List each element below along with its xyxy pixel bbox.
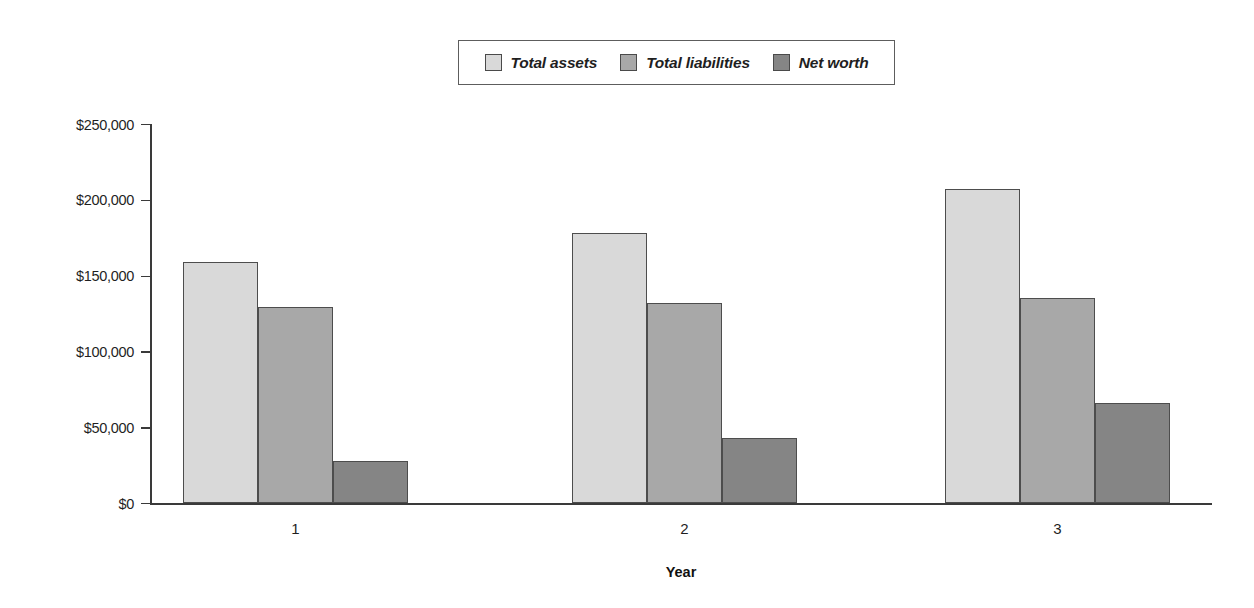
legend-swatch-total-assets	[485, 54, 502, 71]
y-axis-tick: $250,000	[141, 124, 150, 125]
y-axis-tick: $100,000	[141, 351, 150, 352]
x-axis-label-3: 3	[1053, 520, 1061, 537]
chart-legend: Total assets Total liabilities Net worth	[458, 40, 895, 85]
y-axis-tick-label: $200,000	[76, 192, 134, 208]
x-axis-label-1: 1	[291, 520, 299, 537]
legend-item-total-assets[interactable]: Total assets	[485, 54, 598, 72]
bar-total-assets-year-1[interactable]	[183, 262, 258, 503]
bar-total-liabilities-year-1[interactable]	[258, 307, 333, 503]
legend-label-net-worth: Net worth	[799, 54, 869, 72]
legend-label-total-liabilities: Total liabilities	[646, 54, 750, 72]
bar-net-worth-year-3[interactable]	[1095, 403, 1170, 503]
bar-total-liabilities-year-3[interactable]	[1020, 298, 1095, 503]
y-axis-line	[150, 124, 152, 503]
bar-net-worth-year-2[interactable]	[722, 438, 797, 503]
y-axis-tick: $50,000	[141, 427, 150, 428]
legend-swatch-net-worth	[773, 54, 790, 71]
x-axis-label-2: 2	[680, 520, 688, 537]
y-axis-tick-label: $150,000	[76, 268, 134, 284]
legend-swatch-total-liabilities	[620, 54, 637, 71]
y-axis-tick-label: $250,000	[76, 117, 134, 133]
legend-item-total-liabilities[interactable]: Total liabilities	[620, 54, 750, 72]
bar-net-worth-year-1[interactable]	[333, 461, 408, 503]
y-axis-tick: $200,000	[141, 200, 150, 201]
bar-total-assets-year-2[interactable]	[572, 233, 647, 503]
y-axis-tick-label: $50,000	[84, 420, 134, 436]
y-axis-tick-label: $0	[118, 496, 134, 512]
y-axis-tick: $0	[141, 503, 150, 504]
x-axis-title: Year	[666, 564, 697, 580]
y-axis-tick-label: $100,000	[76, 344, 134, 360]
legend-label-total-assets: Total assets	[511, 54, 598, 72]
y-axis-tick: $150,000	[141, 276, 150, 277]
bar-total-liabilities-year-2[interactable]	[647, 303, 722, 503]
plot-area: $0$50,000$100,000$150,000$200,000$250,00…	[150, 124, 1212, 503]
bar-chart: Total assets Total liabilities Net worth…	[0, 0, 1254, 608]
bar-total-assets-year-3[interactable]	[945, 189, 1020, 503]
legend-item-net-worth[interactable]: Net worth	[773, 54, 869, 72]
x-axis-line	[150, 503, 1212, 505]
